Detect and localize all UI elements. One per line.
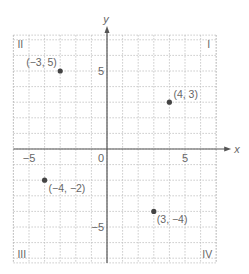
x-tick-label: 0 (98, 152, 104, 164)
y-axis-label: y (102, 13, 110, 25)
data-point (58, 68, 63, 73)
data-point (42, 178, 47, 183)
point-label: (3, −4) (157, 213, 188, 225)
data-point (151, 209, 156, 214)
y-tick-label: 5 (98, 65, 104, 77)
data-point (167, 100, 172, 105)
quadrant-label-iv: IV (202, 248, 212, 260)
quadrant-label-ii: II (17, 38, 23, 50)
point-label: (−3, 5) (26, 56, 57, 68)
x-axis-label: x (233, 143, 240, 155)
point-label: (4, 3) (173, 88, 198, 100)
x-tick-label: −5 (23, 152, 36, 164)
x-axis-arrow-icon (224, 147, 231, 152)
quadrant-label-iii: III (17, 248, 26, 260)
point-label: (−4, −2) (49, 182, 86, 194)
axes: xy (13, 13, 240, 263)
y-tick-label: −5 (91, 221, 104, 233)
data-points: (−3, 5)(4, 3)(−4, −2)(3, −4) (26, 56, 198, 225)
quadrant-label-i: I (207, 38, 210, 50)
y-axis-arrow-icon (105, 26, 110, 33)
coordinate-plane: xy −5055−5 (−3, 5)(4, 3)(−4, −2)(3, −4) … (0, 0, 249, 274)
x-tick-label: 5 (182, 152, 188, 164)
